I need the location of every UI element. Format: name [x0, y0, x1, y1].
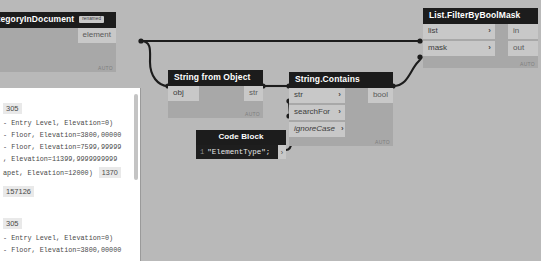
chevron-right-icon[interactable]: ›: [341, 125, 344, 133]
chevron-right-icon[interactable]: ›: [338, 91, 341, 99]
node-title: Code Block: [196, 130, 286, 145]
node-footer-auto: AUTO: [98, 65, 113, 71]
node-footer-auto: AUTO: [245, 111, 260, 117]
output-port-label: element: [83, 31, 111, 39]
port-dot-element: [138, 38, 143, 43]
output-port-label: bool: [373, 91, 388, 99]
output-port-bool[interactable]: bool: [368, 88, 393, 103]
node-title: String.Contains: [289, 72, 393, 88]
input-port-label: str: [294, 91, 303, 99]
input-port-label: obj: [173, 89, 184, 97]
input-port-label: mask: [428, 44, 447, 52]
renamed-badge: renamed: [79, 16, 104, 23]
output-port-group: in out: [508, 24, 538, 58]
code-line-number: 1: [196, 148, 207, 156]
output-port-label: in: [513, 27, 519, 35]
output-port-in[interactable]: in: [508, 24, 538, 39]
input-port-searchfor[interactable]: searchFor ›: [289, 105, 345, 120]
wire-bool-to-mask: [393, 57, 421, 86]
list-item: , Elevation=11399,9999999999: [0, 153, 140, 165]
input-port-str[interactable]: str ›: [289, 88, 345, 103]
list-item: - Floor, Elevation=7599,99999: [0, 141, 140, 153]
output-port-label: out: [513, 44, 524, 52]
input-port-label: list: [428, 27, 438, 35]
output-port-codeblock[interactable]: ›: [278, 145, 286, 159]
node-list-filter-by-bool-mask[interactable]: List.FilterByBoolMask list › mask › in o…: [423, 8, 538, 68]
node-code-block[interactable]: Code Block 1 "ElementType"; ›: [196, 130, 286, 159]
code-text[interactable]: "ElementType";: [207, 148, 277, 156]
node-string-contains[interactable]: String.Contains str › searchFor › ignore…: [289, 72, 393, 146]
port-dot-mask: [417, 54, 422, 59]
wire-element-to-obj: [141, 41, 168, 86]
list-index-badge: 1370: [99, 167, 121, 178]
node-body: str › searchFor › ignoreCase › bool AUTO: [289, 88, 393, 146]
node-title: sOfCategoryInDocumentrenamed: [0, 12, 116, 28]
list-item: - Floor, Elevation=3800,00000: [0, 244, 140, 256]
node-footer-auto: AUTO: [520, 61, 535, 67]
code-block-editor[interactable]: 1 "ElementType"; ›: [196, 145, 286, 159]
node-body: obj str AUTO: [168, 86, 263, 118]
list-item-with-badge: apet, Elevation=12000)1370: [0, 165, 140, 180]
list-item: - Floor, Elevation=3800,00000: [0, 129, 140, 141]
input-port-obj[interactable]: obj: [168, 86, 199, 101]
output-port-str[interactable]: str: [244, 86, 263, 101]
output-port-label: str: [249, 89, 258, 97]
input-port-list[interactable]: list ›: [423, 24, 495, 39]
chevron-right-icon[interactable]: ›: [488, 27, 491, 35]
node-body: element AUTO: [0, 28, 116, 72]
node-all-elements-of-category-in-document[interactable]: sOfCategoryInDocumentrenamed element AUT…: [0, 12, 116, 72]
preview-group-1: 305 - Entry Level, Elevation=0) - Floor,…: [0, 88, 140, 203]
node-title: String from Object: [168, 70, 263, 86]
node-footer-auto: AUTO: [375, 139, 390, 145]
input-port-label: searchFor: [294, 108, 330, 116]
chevron-right-icon[interactable]: ›: [338, 108, 341, 116]
node-title: List.FilterByBoolMask: [423, 8, 538, 24]
list-item: - Entry Level, Elevation=0): [0, 117, 140, 129]
input-port-mask[interactable]: mask ›: [423, 41, 495, 56]
list-index-badge: 305: [3, 218, 22, 229]
chevron-right-icon[interactable]: ›: [488, 44, 491, 52]
preview-panel[interactable]: 305 - Entry Level, Elevation=0) - Floor,…: [0, 88, 141, 261]
graph-canvas[interactable]: sOfCategoryInDocumentrenamed element AUT…: [0, 0, 541, 261]
output-port-group: bool: [368, 88, 393, 103]
port-dot-list: [417, 38, 422, 43]
preview-separator: [0, 203, 140, 212]
input-port-group: list › mask ›: [423, 24, 495, 58]
preview-group-2: 305 - Entry Level, Elevation=0) - Floor,…: [0, 212, 140, 256]
input-port-group: str › searchFor › ignoreCase ›: [289, 88, 345, 139]
node-body: list › mask › in out AUTO: [423, 24, 538, 68]
list-item-text: apet, Elevation=12000): [3, 169, 93, 177]
node-title-text: sOfCategoryInDocument: [0, 14, 74, 24]
input-port-ignorecase[interactable]: ignoreCase ›: [289, 122, 345, 137]
list-index-badge: 157126: [3, 186, 34, 197]
node-string-from-object[interactable]: String from Object obj str AUTO: [168, 70, 263, 118]
list-index-badge: 305: [3, 103, 22, 114]
port-row: obj str: [168, 86, 263, 101]
list-item: - Entry Level, Elevation=0): [0, 232, 140, 244]
output-port-element[interactable]: element: [78, 28, 116, 43]
input-port-label: ignoreCase: [294, 125, 335, 133]
output-port-out[interactable]: out: [508, 41, 538, 56]
